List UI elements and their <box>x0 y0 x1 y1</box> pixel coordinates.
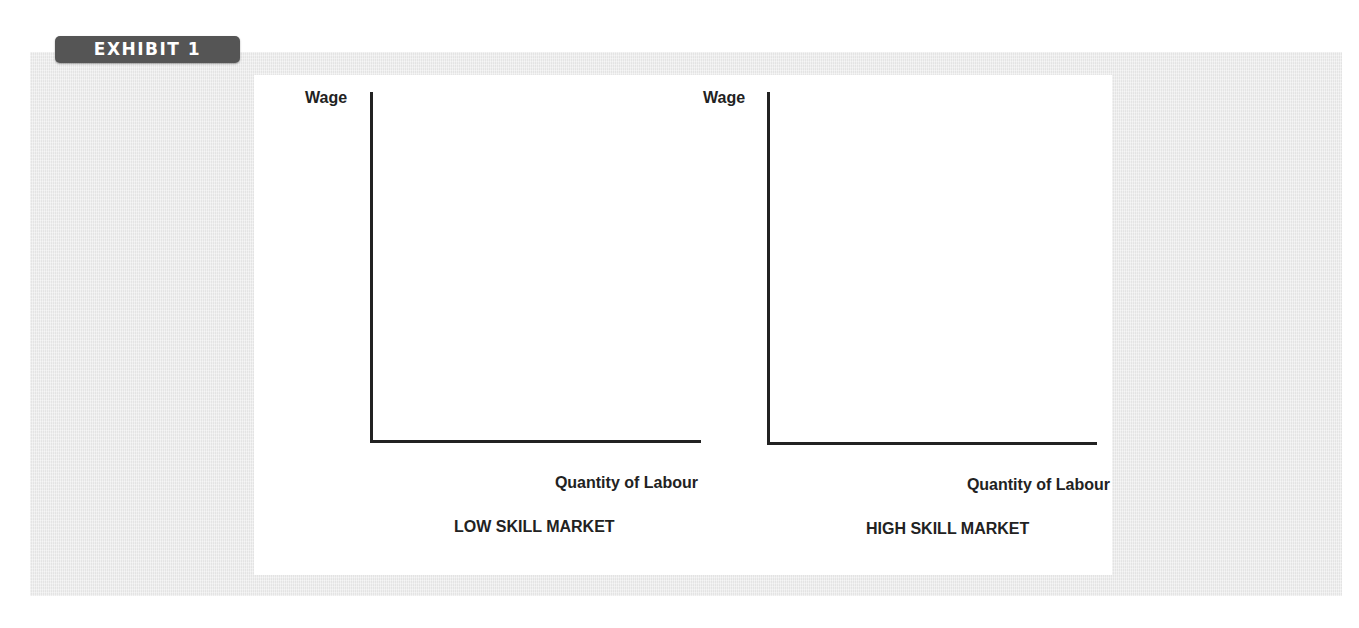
x-axis <box>370 440 701 443</box>
y-axis-label: Wage <box>305 89 347 107</box>
y-axis-label: Wage <box>703 89 745 107</box>
x-axis <box>767 442 1097 445</box>
exhibit-panel: Wage Quantity of Labour LOW SKILL MARKET… <box>254 75 1112 575</box>
x-axis-label: Quantity of Labour <box>555 474 698 492</box>
low-skill-market-diagram: Wage Quantity of Labour LOW SKILL MARKET <box>254 75 704 575</box>
diagram-title: HIGH SKILL MARKET <box>866 520 1029 538</box>
y-axis <box>767 92 770 445</box>
y-axis <box>370 92 373 443</box>
exhibit-label: EXHIBIT 1 <box>55 36 240 63</box>
high-skill-market-diagram: Wage Quantity of Labour HIGH SKILL MARKE… <box>699 75 1112 575</box>
diagram-title: LOW SKILL MARKET <box>454 518 615 536</box>
x-axis-label: Quantity of Labour <box>967 476 1110 494</box>
